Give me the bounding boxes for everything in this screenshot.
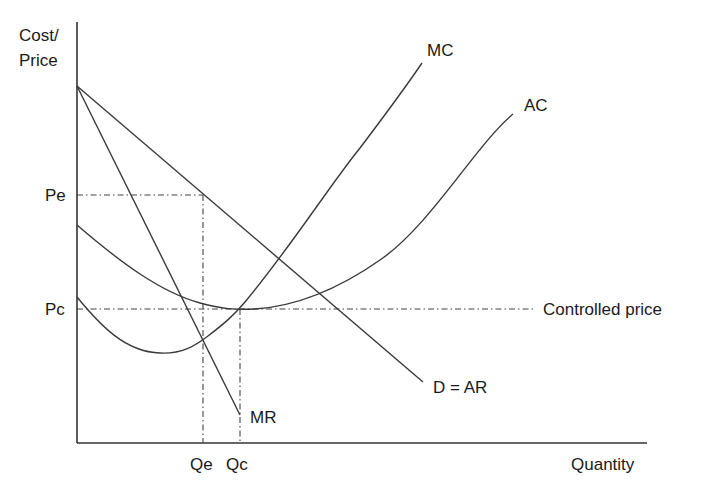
qe-label: Qe: [190, 455, 213, 474]
demand-label: D = AR: [433, 378, 487, 397]
pe-label: Pe: [45, 186, 66, 205]
pc-label: Pc: [45, 300, 65, 319]
qc-label: Qc: [226, 455, 248, 474]
ac-label: AC: [524, 96, 548, 115]
x-axis-label: Quantity: [571, 455, 635, 474]
y-axis-label-line2: Price: [19, 51, 58, 70]
average-cost-curve: [77, 114, 513, 309]
mr-label: MR: [250, 408, 276, 427]
monopoly-price-control-diagram: Cost/ Price Quantity Pe Pc Qe Qc MC AC D…: [0, 0, 706, 493]
demand-curve: [77, 86, 423, 382]
marginal-revenue-curve: [77, 86, 240, 415]
mc-label: MC: [427, 41, 453, 60]
controlled-price-label: Controlled price: [543, 300, 662, 319]
y-axis-label-line1: Cost/: [19, 26, 59, 45]
